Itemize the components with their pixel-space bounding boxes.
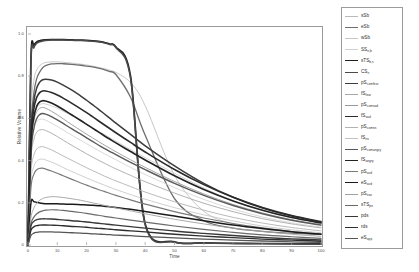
x-tick-label: 0 (27, 249, 29, 253)
legend-line-swatch (345, 160, 358, 161)
x-tick-label: 20 (84, 249, 89, 253)
legend-item-label: sTSb,s (361, 59, 374, 64)
legend-item[interactable]: sSb (345, 11, 400, 22)
legend-item[interactable]: fSfear (345, 89, 400, 100)
legend-item-label: eSapp (361, 236, 372, 241)
y-axis-label: Relative Volume (17, 92, 22, 162)
legend-item[interactable]: fSsad (345, 111, 400, 122)
legend-item[interactable]: pScomsad (345, 100, 400, 111)
x-tick-label: 60 (201, 249, 206, 253)
legend-item[interactable]: fSangry (345, 155, 400, 166)
legend-item-label: fSangry (361, 158, 374, 163)
x-tick-label: 90 (289, 249, 294, 253)
legend-line-swatch (345, 116, 358, 117)
legend-item-label: sTSpe (361, 203, 373, 208)
legend-line-swatch (345, 49, 358, 50)
x-tick-label: 40 (143, 249, 148, 253)
legend-line-swatch (345, 94, 358, 95)
x-tick-label: 100 (317, 249, 324, 253)
legend-line-swatch (345, 127, 358, 128)
legend-item[interactable]: pScomfear (345, 78, 400, 89)
legend-item[interactable]: SSn,b (345, 44, 400, 55)
legend-item-label: pScomfear (361, 81, 379, 86)
legend-item[interactable]: CSn (345, 66, 400, 77)
legend-item[interactable]: pScomangry (345, 144, 400, 155)
legend-item-label: eSavd (361, 181, 372, 186)
legend-item-label: SSn,b (361, 48, 372, 53)
legend-line-swatch (345, 182, 358, 183)
legend-item-label: pSsso (361, 192, 372, 197)
x-tick-label: 80 (260, 249, 265, 253)
legend-line-swatch (345, 205, 358, 206)
x-tick-label: 30 (114, 249, 119, 253)
legend-line-swatch (345, 83, 358, 84)
legend-item-label: pSavd (361, 170, 372, 175)
legend-line-swatch (345, 216, 358, 217)
legend-item-label: pScomsad (361, 103, 378, 108)
series-line (28, 168, 321, 245)
legend-line-swatch (345, 38, 358, 39)
legend-item[interactable]: sTSb,s (345, 55, 400, 66)
y-tick-label: 0 (13, 243, 24, 247)
plot-panel: 0102030405060708090100 00.20.40.60.81.0 (26, 26, 323, 247)
legend-item-label: rds (361, 225, 368, 230)
legend-item[interactable]: pSsso (345, 189, 400, 200)
legend-item-label: wSb (361, 36, 370, 41)
legend-box: sSbeSbwSbSSn,bsTSb,sCSnpScomfearfSfearpS… (341, 7, 403, 249)
legend-item[interactable]: wSb (345, 33, 400, 44)
x-tick-label: 70 (231, 249, 236, 253)
legend-item-label: fSns (361, 136, 369, 141)
legend-item[interactable]: rds (345, 222, 400, 233)
legend-item[interactable]: eSb (345, 22, 400, 33)
legend-item-label: fSsad (361, 114, 371, 119)
legend-line-swatch (345, 227, 358, 228)
legend-item[interactable]: pds (345, 211, 400, 222)
legend-item-label: eSb (361, 25, 369, 30)
legend-line-swatch (345, 105, 358, 106)
legend-item[interactable]: sTSpe (345, 200, 400, 211)
x-tick-label: 10 (55, 249, 60, 253)
legend-item[interactable]: pSavd (345, 166, 400, 177)
legend-line-swatch (345, 138, 358, 139)
legend-item-label: fSfear (361, 92, 371, 97)
legend-line-swatch (345, 60, 358, 61)
legend-line-swatch (345, 72, 358, 73)
y-tick-label: 0.8 (13, 74, 24, 78)
y-tick-label: 1.0 (13, 32, 24, 36)
legend-line-swatch (345, 149, 358, 150)
legend-item-label: pScomangry (361, 147, 381, 152)
legend-line-swatch (345, 171, 358, 172)
legend-item[interactable]: eSapp (345, 233, 400, 244)
legend-line-swatch (345, 16, 358, 17)
figure-root: 0102030405060708090100 00.20.40.60.81.0 … (0, 0, 419, 272)
legend-item-label: CSn (361, 70, 369, 75)
x-axis-label: Time (26, 254, 323, 259)
legend-item[interactable]: pScomns (345, 122, 400, 133)
legend-item-label: pds (361, 214, 369, 219)
y-tick-label: 0.2 (13, 201, 24, 205)
legend-line-swatch (345, 238, 358, 239)
x-tick-label: 50 (172, 249, 177, 253)
legend-item-label: sSb (361, 14, 369, 19)
legend-item-label: pScomns (361, 125, 376, 130)
plot-curves (26, 26, 323, 247)
legend-line-swatch (345, 27, 358, 28)
legend-item[interactable]: fSns (345, 133, 400, 144)
legend-line-swatch (345, 194, 358, 195)
legend-item[interactable]: eSavd (345, 177, 400, 188)
